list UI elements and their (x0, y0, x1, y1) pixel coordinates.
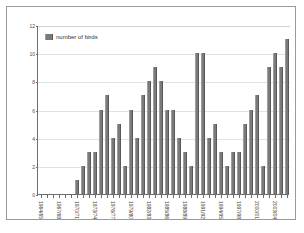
legend-label: number of birds (56, 34, 98, 40)
bar (159, 81, 163, 194)
bar (171, 110, 175, 195)
bar (81, 166, 85, 194)
x-tick-label: 1988/89 (182, 201, 187, 219)
y-tick-label: 8 (32, 80, 35, 85)
bar-slot (284, 25, 290, 194)
x-tick-label: 1976/77 (110, 201, 115, 219)
bar (99, 110, 103, 195)
bar (273, 53, 277, 194)
bar (249, 110, 253, 195)
bar (105, 95, 109, 194)
bar (111, 138, 115, 194)
bar (147, 81, 151, 194)
bar (255, 95, 259, 194)
bar (231, 152, 235, 194)
bar (183, 152, 187, 194)
y-tick-label: 12 (29, 24, 35, 29)
legend-swatch-icon (45, 34, 53, 40)
y-tick-label: 10 (29, 52, 35, 57)
legend: number of birds (43, 33, 101, 41)
bar (195, 53, 199, 194)
chart-frame: 024681012 1964/651967/681970/711973/7419… (6, 6, 296, 220)
x-axis-labels: 1964/651967/681970/711973/741976/771979/… (37, 200, 289, 233)
bar (219, 152, 223, 194)
bar-series (38, 25, 290, 194)
x-tick-label: 1982/83 (146, 201, 151, 219)
bar (123, 166, 127, 194)
x-tick-label: 1997/98 (236, 201, 241, 219)
x-tick-label: 1973/74 (92, 201, 97, 219)
x-axis-ticks (38, 194, 290, 199)
x-tick-label: 2000/01 (254, 201, 259, 219)
bar (279, 67, 283, 194)
x-tick-label: 1979/80 (128, 201, 133, 219)
x-label-slot (283, 200, 289, 233)
bar (117, 124, 121, 194)
bar (237, 152, 241, 194)
y-tick-label: 0 (32, 193, 35, 198)
bar (141, 95, 145, 194)
y-tick-label: 2 (32, 164, 35, 169)
bar (201, 53, 205, 194)
bar (93, 152, 97, 194)
bar (165, 110, 169, 195)
x-tick-label: 2003/04 (272, 201, 277, 219)
plot-area: 024681012 (37, 26, 289, 195)
x-tick-label: 1964/65 (38, 201, 43, 219)
x-tick-label: 1967/68 (56, 201, 61, 219)
bar (87, 152, 91, 194)
bar (225, 166, 229, 194)
bar (75, 180, 79, 194)
bar (267, 67, 271, 194)
x-tick-label: 1994/95 (218, 201, 223, 219)
bar (285, 39, 289, 194)
x-tick (284, 194, 290, 199)
bar (213, 124, 217, 194)
bar (243, 124, 247, 194)
bar (153, 67, 157, 194)
bar (177, 138, 181, 194)
y-tick-label: 4 (32, 136, 35, 141)
x-tick-label: 1985/86 (164, 201, 169, 219)
y-tick-label: 6 (32, 108, 35, 113)
bar (129, 110, 133, 195)
x-tick-label: 1991/92 (200, 201, 205, 219)
bar (135, 138, 139, 194)
bar (189, 166, 193, 194)
bar (261, 166, 265, 194)
bar (207, 138, 211, 194)
x-tick-label: 1970/71 (74, 201, 79, 219)
